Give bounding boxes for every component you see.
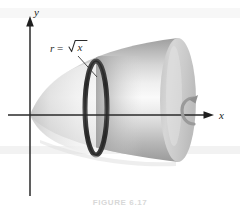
- paraboloid-figure-svg: y x r = x FIGURE 6.17: [0, 0, 240, 207]
- end-cap-highlight: [166, 46, 182, 146]
- x-axis-arrowhead: [204, 111, 215, 119]
- radius-label-r: r: [50, 42, 55, 54]
- y-axis-label: y: [33, 6, 39, 18]
- radius-label-equals: =: [57, 42, 63, 54]
- radicand-label-x: x: [77, 41, 83, 53]
- solid-of-revolution: [30, 38, 196, 166]
- x-axis-label: x: [218, 109, 224, 121]
- figure-caption: FIGURE 6.17: [93, 198, 148, 207]
- figure-container: y x r = x FIGURE 6.17: [0, 0, 240, 207]
